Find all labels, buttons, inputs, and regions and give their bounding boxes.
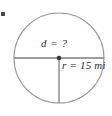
edge-tick-mark-icon xyxy=(1,12,5,16)
circle-diagram-figure: d = ? r = 15 mi xyxy=(0,0,112,116)
diameter-label: d = ? xyxy=(41,38,67,49)
circle-diagram-svg xyxy=(0,0,112,116)
radius-label: r = 15 mi xyxy=(62,60,106,71)
center-point-dot xyxy=(57,56,62,61)
